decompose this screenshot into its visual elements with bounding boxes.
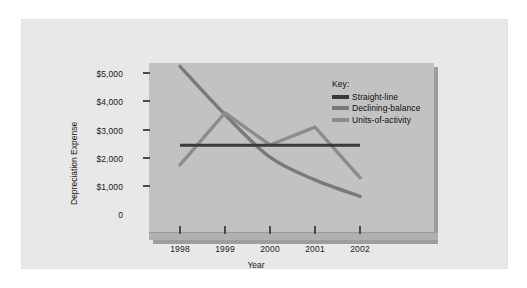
legend-swatch-straight-line xyxy=(332,95,349,99)
chart-figure: $5,000 $4,000 $3,000 $2,000 $1,000 0 Dep… xyxy=(21,19,508,269)
legend-label-declining-balance: Declining-balance xyxy=(352,103,420,113)
screenshot-root: $5,000 $4,000 $3,000 $2,000 $1,000 0 Dep… xyxy=(0,0,527,288)
legend-item-units-of-activity: Units-of-activity xyxy=(332,114,432,125)
legend-swatch-units-of-activity xyxy=(332,118,349,122)
plot-lines xyxy=(21,19,508,269)
legend-item-declining-balance: Declining-balance xyxy=(332,103,432,114)
legend: Key: Straight-line Declining-balance Uni… xyxy=(332,79,432,126)
legend-title: Key: xyxy=(332,79,432,89)
legend-swatch-declining-balance xyxy=(332,106,349,110)
axis-ticks xyxy=(143,72,361,234)
legend-label-straight-line: Straight-line xyxy=(352,92,398,102)
legend-item-straight-line: Straight-line xyxy=(332,91,432,102)
legend-label-units-of-activity: Units-of-activity xyxy=(352,115,411,125)
